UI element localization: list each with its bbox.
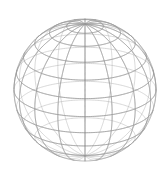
grid-line <box>19 24 85 156</box>
grid-line <box>14 24 85 156</box>
globe-svg <box>0 0 168 171</box>
grid-line <box>19 23 85 155</box>
grid-line <box>85 24 151 142</box>
grid-line <box>19 24 85 142</box>
wireframe-globe-figure <box>0 0 168 171</box>
grid-line <box>85 23 151 155</box>
grid-line <box>85 24 151 156</box>
grid-line <box>85 24 156 156</box>
